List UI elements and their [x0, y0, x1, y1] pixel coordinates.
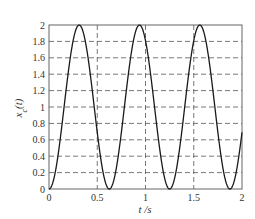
grid-lines — [49, 25, 242, 189]
x-tick-label: 0.5 — [91, 192, 104, 203]
x-axis-ticks: 00.511.52 — [47, 192, 245, 203]
y-tick-label: 1.8 — [33, 36, 46, 47]
x-axis-label: t /s — [138, 203, 151, 215]
y-tick-label: 0 — [40, 184, 45, 195]
y-axis-label: xc(t) — [12, 98, 29, 118]
y-tick-label: 0.6 — [33, 134, 46, 145]
y-tick-label: 1 — [40, 102, 45, 113]
x-tick-label: 1 — [143, 192, 148, 203]
x-tick-label: 1.5 — [188, 192, 201, 203]
line-chart: 00.20.40.60.811.21.41.61.82 00.511.52 t … — [0, 0, 255, 219]
y-tick-label: 0.4 — [33, 151, 46, 162]
x-tick-label: 2 — [240, 192, 245, 203]
y-tick-label: 0.2 — [33, 167, 46, 178]
y-tick-label: 1.2 — [33, 85, 46, 96]
y-tick-label: 2 — [40, 20, 45, 31]
y-tick-label: 0.8 — [33, 118, 46, 129]
y-tick-label: 1.6 — [33, 52, 46, 63]
x-tick-label: 0 — [47, 192, 52, 203]
y-axis-ticks: 00.20.40.60.811.21.41.61.82 — [33, 20, 46, 195]
y-tick-label: 1.4 — [33, 69, 46, 80]
